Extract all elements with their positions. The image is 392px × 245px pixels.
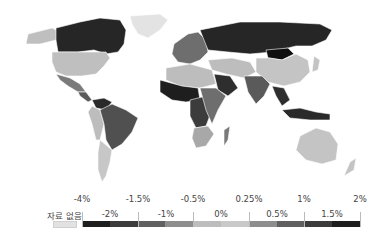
color-scale-bar	[82, 221, 360, 227]
legend-segment	[138, 221, 166, 227]
region-australia[interactable]	[296, 128, 338, 164]
region-indonesia[interactable]	[282, 108, 330, 120]
legend-tick-mid: 0%	[214, 209, 228, 219]
legend: -4%-1.5%-0.5%0.25%1%2% -2%-1%0%0.5%1.5% …	[0, 185, 392, 245]
legend-tick-mid: -2%	[102, 209, 119, 219]
world-map	[0, 0, 392, 190]
legend-divider	[193, 212, 194, 227]
region-usa[interactable]	[52, 52, 110, 76]
legend-segment	[82, 221, 110, 227]
legend-segment	[110, 221, 138, 227]
region-russia[interactable]	[200, 22, 332, 54]
region-south-africa[interactable]	[192, 126, 214, 148]
legend-segment	[332, 221, 360, 227]
legend-segment	[304, 221, 332, 227]
region-southeast-asia[interactable]	[272, 86, 290, 106]
legend-tick-top: 1%	[297, 194, 311, 204]
legend-divider	[138, 212, 139, 227]
region-new-zealand[interactable]	[344, 158, 356, 176]
legend-tick-top: -0.5%	[181, 194, 206, 204]
no-data-label: 자료 없음	[47, 209, 82, 221]
legend-segment	[249, 221, 277, 227]
legend-divider	[304, 212, 305, 227]
region-madagascar[interactable]	[224, 126, 230, 146]
legend-tick-top: 2%	[353, 194, 367, 204]
legend-segment	[165, 221, 193, 227]
region-brazil[interactable]	[100, 104, 138, 150]
region-alaska[interactable]	[26, 28, 60, 44]
legend-divider	[82, 212, 83, 227]
legend-tick-mid: 1.5%	[321, 209, 343, 219]
region-central-america[interactable]	[78, 92, 92, 102]
legend-divider	[249, 212, 250, 227]
legend-segment	[221, 221, 249, 227]
legend-tick-mid: -1%	[158, 209, 175, 219]
legend-divider	[360, 212, 361, 227]
legend-tick-top: -1.5%	[126, 194, 151, 204]
region-greenland[interactable]	[130, 14, 168, 38]
no-data-swatch	[53, 221, 77, 228]
region-canada[interactable]	[56, 18, 126, 54]
legend-tick-mid: 0.5%	[266, 209, 288, 219]
legend-tick-top: -4%	[74, 194, 91, 204]
legend-segment	[193, 221, 221, 227]
region-japan[interactable]	[312, 56, 320, 72]
region-india[interactable]	[244, 76, 270, 104]
region-mexico[interactable]	[56, 74, 86, 92]
legend-segment	[277, 221, 305, 227]
legend-tick-top: 0.25%	[235, 194, 262, 204]
